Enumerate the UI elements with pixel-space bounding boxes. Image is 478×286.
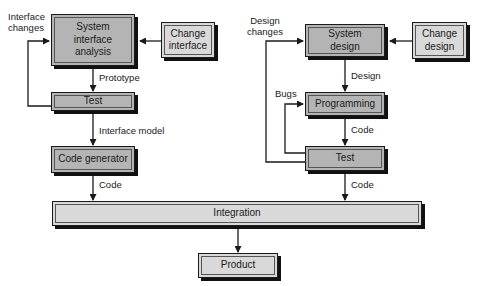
interface-model-label: Interface model [99,125,164,136]
interface-test-box: Test [51,92,135,111]
design-test-box: Test [305,146,385,171]
interface-test-label: Test [54,95,132,108]
product-label: Product [201,256,275,275]
design-label: Design [351,70,381,81]
interface-changes-label: Interface changes [8,11,45,34]
programming-label: Programming [308,95,382,113]
change-design-box: Change design [412,22,467,59]
system-interface-analysis-box: System interface analysis [51,14,135,66]
design-changes-label: Design changes [247,15,283,38]
code-generator-box: Code generator [51,146,135,173]
change-interface-label: Change interface [164,25,212,55]
programming-box: Programming [305,92,385,116]
change-design-label: Change design [415,25,464,56]
integration-box: Integration [52,201,422,226]
system-interface-analysis-label: System interface analysis [54,17,132,63]
design-test-label: Test [308,149,382,168]
prototype-label: Prototype [99,72,140,83]
left-code-label: Code [99,179,122,190]
product-box: Product [198,253,278,278]
right-code-label-1: Code [351,124,374,135]
code-generator-label: Code generator [54,149,132,170]
bugs-label: Bugs [275,88,297,99]
right-code-label-2: Code [351,179,374,190]
integration-label: Integration [55,204,419,223]
change-interface-box: Change interface [161,22,215,58]
system-design-box: System design [305,24,385,57]
system-design-label: System design [308,27,382,54]
